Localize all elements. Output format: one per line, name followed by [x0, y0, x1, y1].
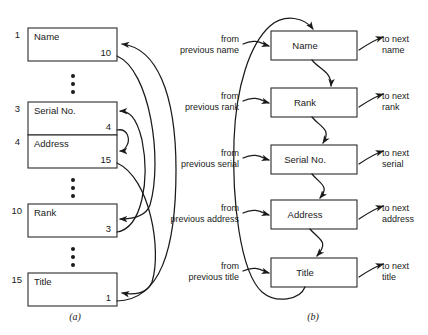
- node-label-title: Title: [296, 267, 314, 278]
- record-index-4: 4: [15, 136, 20, 147]
- record-index-15: 15: [11, 274, 22, 285]
- record-row-serial[interactable]: 3 Serial No. 4: [15, 102, 117, 135]
- in-label-name-line2: previous name: [180, 45, 239, 55]
- record-pointer-serial: 4: [106, 121, 111, 132]
- out-label-rank-line2: rank: [382, 102, 400, 112]
- out-label-name-line1: to next: [382, 34, 410, 44]
- record-row-name[interactable]: 1 Name 10: [15, 28, 117, 61]
- panel-a: 1 Name 10 3 Serial No. 4 4 Address 15: [11, 28, 176, 323]
- in-label-title-line2: previous title: [188, 272, 239, 282]
- in-arrow-rank: [243, 98, 269, 103]
- record-pointer-rank: 3: [106, 223, 111, 234]
- chain-arrow-rank-to-serial: [312, 117, 326, 143]
- out-arrow-rank: [359, 94, 383, 107]
- record-index-3: 3: [15, 103, 20, 114]
- out-arrow-name: [359, 37, 383, 50]
- record-field-rank: Rank: [34, 207, 56, 218]
- caption-b: (b): [307, 311, 319, 323]
- in-label-name-line1: from: [221, 34, 239, 44]
- out-arrow-serial: [359, 151, 383, 164]
- in-label-address-line2: previous address: [170, 214, 239, 224]
- record-field-name: Name: [34, 31, 59, 42]
- in-label-rank-line1: from: [221, 91, 239, 101]
- out-label-title-line1: to next: [382, 261, 410, 271]
- pointer-arc-address-to-title: [117, 163, 155, 294]
- chain-arrow-name-to-rank: [312, 60, 331, 86]
- node-serial[interactable]: Serial No. from previous serial to next …: [181, 145, 410, 174]
- node-label-address: Address: [288, 209, 323, 220]
- record-index-1: 1: [15, 29, 20, 40]
- record-index-10: 10: [11, 205, 22, 216]
- ellipsis-upper: [71, 74, 75, 94]
- record-field-serial: Serial No.: [34, 105, 76, 116]
- out-arrow-address: [359, 206, 383, 219]
- record-pointer-address: 15: [100, 154, 111, 165]
- record-pointer-name: 10: [100, 47, 111, 58]
- record-field-title: Title: [34, 276, 52, 287]
- out-label-name-line2: name: [382, 45, 405, 55]
- panel-b: Name from previous name to next name Ran…: [170, 18, 414, 323]
- pointer-arc-rank-to-serial: [117, 111, 145, 232]
- node-name[interactable]: Name from previous name to next name: [180, 31, 410, 60]
- out-label-address-line2: address: [382, 214, 415, 224]
- node-label-name: Name: [292, 40, 317, 51]
- out-label-rank-line1: to next: [382, 91, 410, 101]
- ellipsis-lower: [71, 247, 75, 267]
- node-label-serial: Serial No.: [284, 154, 326, 165]
- in-label-serial-line2: previous serial: [181, 159, 239, 169]
- in-arrow-serial: [243, 155, 269, 160]
- in-arrow-address: [243, 210, 269, 215]
- in-label-title-line1: from: [221, 261, 239, 271]
- in-label-serial-line1: from: [221, 148, 239, 158]
- in-label-rank-line2: previous rank: [185, 102, 240, 112]
- out-label-serial-line1: to next: [382, 148, 410, 158]
- node-label-rank: Rank: [294, 97, 316, 108]
- node-address[interactable]: Address from previous address to next ad…: [170, 200, 414, 229]
- node-rank[interactable]: Rank from previous rank to next rank: [185, 88, 410, 117]
- pointer-arc-serial-to-address: [117, 130, 128, 151]
- chain-arrow-address-to-title: [310, 229, 323, 256]
- record-row-rank[interactable]: 10 Rank 3: [11, 204, 117, 237]
- node-title[interactable]: Title from previous title to next title: [188, 258, 409, 287]
- ellipsis-middle: [71, 178, 75, 198]
- pointer-arc-name-to-rank: [117, 56, 155, 219]
- record-field-address: Address: [34, 138, 69, 149]
- caption-a: (a): [69, 311, 81, 323]
- pointer-arc-title-to-name: [117, 44, 176, 301]
- record-row-address[interactable]: 4 Address 15: [15, 135, 117, 168]
- node-box-title[interactable]: [271, 258, 357, 287]
- record-pointer-title: 1: [106, 292, 111, 303]
- out-label-title-line2: title: [382, 272, 396, 282]
- record-row-title[interactable]: 15 Title 1: [11, 273, 117, 306]
- out-arrow-title: [359, 264, 383, 277]
- in-arrow-title: [243, 268, 269, 273]
- chain-arrow-serial-to-address: [312, 174, 324, 198]
- out-label-address-line1: to next: [382, 203, 410, 213]
- linked-list-figure: 1 Name 10 3 Serial No. 4 4 Address 15: [0, 0, 428, 335]
- out-label-serial-line2: serial: [382, 159, 404, 169]
